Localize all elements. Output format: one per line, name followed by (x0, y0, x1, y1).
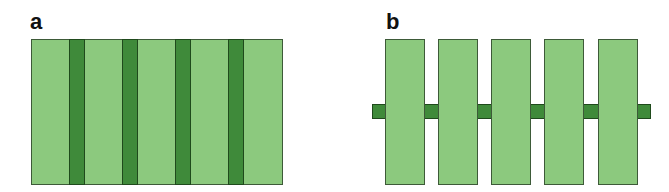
panel-a-stripe-3 (175, 39, 191, 185)
panel-b-label: b (386, 11, 399, 33)
panel-b-rect-4 (544, 39, 584, 185)
panel-a-stripe-4 (228, 39, 244, 185)
panel-a-stripe-1 (69, 39, 85, 185)
panel-a (31, 39, 283, 185)
panel-b (372, 39, 651, 185)
panel-b-rect-3 (491, 39, 531, 185)
panel-b-rect-1 (385, 39, 425, 185)
panel-a-stripe-2 (122, 39, 138, 185)
panel-b-rect-2 (438, 39, 478, 185)
panel-b-rect-5 (598, 39, 638, 185)
panel-a-label: a (30, 11, 42, 33)
